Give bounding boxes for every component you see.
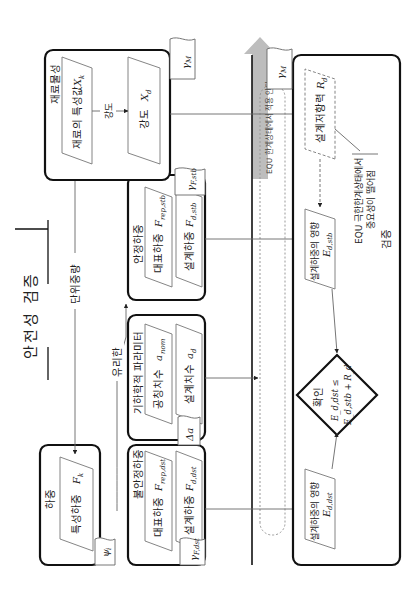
edge-strength-label: 강도 — [104, 103, 114, 119]
node-design-stb-sub: d,stb — [190, 202, 198, 220]
edge-unit-weight-label: 단위중량 — [69, 264, 81, 304]
group-verification-label: 검증 — [380, 229, 392, 249]
note-line1: EQU 극한한계상태에서 — [353, 158, 364, 244]
node-strength-design-text: 강도 — [138, 109, 150, 129]
node-design-dim-text: 설계치수 — [183, 364, 195, 404]
diagram-title: 안전성 검증 — [22, 272, 40, 359]
node-nominal-dim-symbol: a — [153, 355, 164, 361]
node-material-char-sub: k — [78, 75, 86, 79]
factor-gamma-m-right-sub: M — [280, 65, 288, 74]
node-effect-stb-sub: d,stb — [326, 232, 334, 250]
node-check-line1: E_d,dst ≤ — [330, 379, 341, 422]
edge-favorable — [117, 304, 126, 511]
node-nominal-dim-text: 공칭치수 — [152, 369, 164, 409]
node-rep-stb-text: 대표하중 — [152, 233, 164, 273]
factor-delta-a-symbol: Δa — [184, 428, 195, 442]
node-effect-dst-sub: d,dst — [326, 492, 334, 510]
group-unstable-load-label: 불안정하중 — [132, 449, 144, 499]
node-rep-stb-sub: rep,stb — [159, 194, 167, 220]
factor-psi-i-sub: i — [105, 548, 113, 550]
edge-favorable-label: 유리한 — [111, 347, 123, 377]
node-effect-dst-text: 설계하중의 영향 — [309, 482, 320, 541]
group-stable-load-label: 안정하중 — [132, 224, 144, 264]
node-design-dst-sub: d,dst — [190, 466, 198, 484]
group-load-label: 하중 — [44, 489, 56, 509]
node-design-dim-sub: d — [190, 348, 198, 353]
note-line2: 중요성이 떨어짐 — [365, 170, 376, 229]
node-nominal-dim-sub: nom — [159, 338, 167, 354]
group-geometry-label: 기하학적 파라미터 — [132, 331, 144, 414]
factor-gamma-f-dst-sub: F,dst — [193, 538, 201, 556]
node-char-load-text: 특성하중 — [70, 494, 82, 534]
factor-gamma-m-top-sub: M — [185, 55, 193, 64]
node-design-resistance-text: 설계저항력 — [314, 93, 326, 143]
node-char-load-sub: k — [77, 473, 85, 477]
node-design-stb-text: 설계하중 — [183, 231, 195, 271]
node-rep-dst-sub: rep,dst — [159, 459, 167, 484]
node-check-line2: E_d,stb + R_d — [343, 364, 354, 426]
node-design-resistance-sub: d — [321, 77, 329, 82]
factor-gamma-f-stb-sub: F,stb — [190, 168, 198, 186]
node-rep-dst-text: 대표하중 — [152, 497, 164, 537]
node-check-text: 확인 — [312, 387, 324, 407]
node-material-char-text: 재료의 특성값 — [71, 86, 83, 149]
safety-verification-flowchart: 안전성 검증 하중 특성하중 F k ψ i 단위중량 유리한 불안정하중 대표… — [0, 0, 416, 609]
node-effect-stb-text: 설계하중의 영향 — [309, 222, 320, 281]
group-material-label: 재료물성 — [49, 64, 61, 104]
arrow-not-applied-label: EQU 한계상태에서 적용 안됨 — [264, 81, 274, 174]
node-strength-design-sub: d — [145, 89, 153, 94]
node-design-dst-text: 설계하중 — [183, 495, 195, 535]
